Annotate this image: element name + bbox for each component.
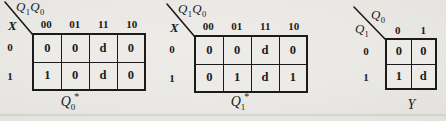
kmap-cell: d [251, 64, 279, 92]
col-header: 00 [194, 20, 223, 33]
kmap-column-vars: Q1Q0 [178, 2, 207, 16]
kmap-column-vars: Q1Q0 [16, 0, 45, 14]
row-header: 1 [3, 70, 17, 83]
kmap-row-var: X [170, 21, 179, 35]
kmap-cell: 0 [61, 34, 89, 62]
kmap-cell: 0 [195, 64, 223, 92]
col-header: 0 [385, 24, 411, 37]
kmap-caption: Y [385, 97, 437, 113]
kmap-cell: d [251, 36, 279, 64]
kmap-cell: 0 [279, 36, 307, 64]
kmap-cell: 0 [386, 39, 411, 64]
col-header: 10 [118, 18, 147, 31]
col-header: 01 [223, 20, 252, 33]
kmap-cell: 0 [223, 36, 251, 64]
col-header: 11 [251, 20, 280, 33]
kmap-cell: d [89, 34, 117, 62]
kmap-col-headers: 00 01 11 10 [32, 18, 146, 31]
kmap-cell: 1 [223, 64, 251, 92]
kmap-cell: 0 [117, 62, 145, 90]
kmap-cell: 1 [33, 62, 61, 90]
kmap-cell: 0 [61, 62, 89, 90]
kmap-cell: 0 [33, 34, 61, 62]
col-header: 10 [280, 20, 309, 33]
kmap-q1-next: Q1Q0 X 00 01 11 10 0 1 0 0 d 0 0 1 d 1 Q… [162, 2, 312, 121]
kmap-row-var: X [8, 19, 17, 33]
kmap-cell: d [89, 62, 117, 90]
kmap-caption: Q0* [14, 94, 126, 110]
kmap-cell: 1 [386, 64, 411, 89]
kmap-cell: d [411, 64, 436, 89]
row-header: 0 [3, 41, 17, 54]
kmap-q0-next: Q1Q0 X 00 01 11 10 0 1 0 0 d 0 1 0 d 0 Q… [0, 0, 150, 121]
scan-artifact-streak [0, 114, 446, 116]
kmap-cell: 0 [195, 36, 223, 64]
row-header: 0 [359, 45, 373, 58]
col-header: 01 [61, 18, 90, 31]
kmap-grid: 0 0 d 0 1 0 d 0 [32, 33, 146, 91]
row-header: 1 [165, 72, 179, 85]
row-header: 0 [165, 43, 179, 56]
kmap-row-var: Q1 [355, 22, 369, 36]
col-header: 00 [32, 18, 61, 31]
kmap-column-vars: Q0 [371, 8, 385, 22]
kmap-cell: 0 [117, 34, 145, 62]
kmap-cell: 1 [279, 64, 307, 92]
kmap-caption: Q1* [184, 94, 296, 110]
kmap-col-headers: 0 1 [385, 24, 436, 37]
kmap-output-y: Q0 Q1 0 1 0 1 0 0 1 d Y [350, 5, 446, 121]
kmap-col-headers: 00 01 11 10 [194, 20, 308, 33]
kmap-cell: 0 [411, 39, 436, 64]
kmap-grid: 0 0 d 0 0 1 d 1 [194, 35, 308, 93]
col-header: 11 [89, 18, 118, 31]
kmap-grid: 0 0 1 d [385, 38, 437, 90]
scanned-figure: Q1Q0 X 00 01 11 10 0 1 0 0 d 0 1 0 d 0 Q… [0, 0, 446, 121]
col-header: 1 [411, 24, 437, 37]
row-header: 1 [359, 71, 373, 84]
